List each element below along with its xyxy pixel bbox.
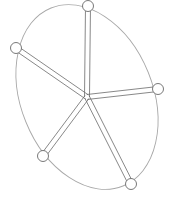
spoke-edge-line [45,98,89,157]
rim-ellipse [0,0,176,203]
spoke-bottom-right [85,96,133,185]
node-bottom-right [126,179,137,190]
spoke-edge-line [87,87,158,95]
spoke-edge-line [15,50,86,99]
spoke-right [87,87,159,100]
nodes-group [11,1,164,190]
spokes-group [15,6,159,185]
spoke-left [15,46,89,99]
spoke-edge-line [87,91,158,99]
node-left [11,43,22,54]
wheel-diagram [0,0,176,203]
spoke-top [85,6,91,97]
spoke-edge-line [89,6,90,97]
node-top [83,1,94,12]
node-bottom-left [38,151,49,162]
spoke-bottom-left [41,96,89,158]
node-right [153,84,164,95]
spoke-edge-line [89,96,133,183]
spoke-edge-line [85,6,86,97]
spoke-edge-line [17,46,88,95]
spoke-edge-line [41,96,85,155]
spoke-edge-line [85,98,129,185]
